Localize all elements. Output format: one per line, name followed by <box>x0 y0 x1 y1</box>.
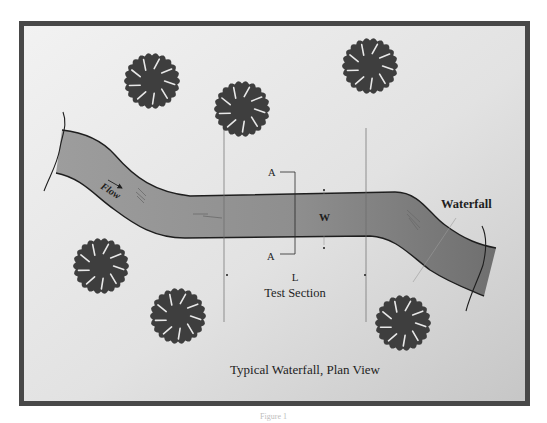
length-tick-right <box>364 274 366 276</box>
length-label: L <box>292 271 299 283</box>
figure-title: Typical Waterfall, Plan View <box>230 362 380 377</box>
width-tick-bottom <box>323 247 325 249</box>
test-section-label: Test Section <box>264 286 326 300</box>
waterfall-label: Waterfall <box>441 197 492 211</box>
waterfall-plan-diagram: Flow Waterfall A A W L Test Section Typi… <box>0 0 547 423</box>
width-tick-top <box>323 189 325 191</box>
figure-footnote: Figure 1 <box>0 412 547 421</box>
width-label: W <box>319 211 330 223</box>
length-tick-left <box>226 274 228 276</box>
section-marker-bottom: A <box>267 251 275 262</box>
section-marker-top: A <box>268 167 276 178</box>
